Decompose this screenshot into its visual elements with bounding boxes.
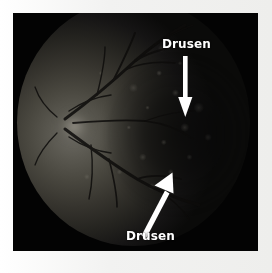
figure-root: Drusen Drusen: [0, 0, 272, 273]
film-grain: [13, 13, 258, 251]
fundus-photograph: Drusen Drusen: [13, 13, 258, 251]
